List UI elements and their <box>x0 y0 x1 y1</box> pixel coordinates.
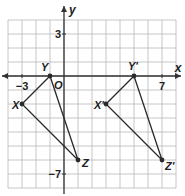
y-tick-label: −7 <box>48 168 61 180</box>
grid-lines <box>8 20 176 188</box>
vertex-point <box>104 102 109 107</box>
vertex-label: Z' <box>164 160 175 172</box>
y-tick-label: 3 <box>55 28 61 40</box>
x-tick-label: −3 <box>16 80 29 92</box>
vertex-label: Z <box>81 157 90 169</box>
origin-label: O <box>54 79 63 91</box>
triangles: XYZX'Y'Z' <box>11 60 175 172</box>
y-axis-label: y <box>68 3 77 17</box>
vertex-label: X <box>11 99 20 111</box>
vertex-point <box>48 74 53 79</box>
coordinate-plane: xyO −373−7 XYZX'Y'Z' <box>0 0 185 196</box>
y-axis-arrow-up-icon <box>61 6 67 12</box>
x-tick-label: 7 <box>159 80 165 92</box>
vertex-label: X' <box>93 99 104 111</box>
vertex-point <box>20 102 25 107</box>
vertex-label: Y <box>41 61 50 73</box>
vertex-point <box>160 158 165 163</box>
x-axis-arrow-left-icon <box>2 73 8 79</box>
vertex-point <box>76 158 81 163</box>
vertex-label: Y' <box>128 60 138 72</box>
graph-svg: xyO −373−7 XYZX'Y'Z' <box>0 0 185 196</box>
vertex-point <box>132 74 137 79</box>
x-axis-label: x <box>174 61 183 75</box>
